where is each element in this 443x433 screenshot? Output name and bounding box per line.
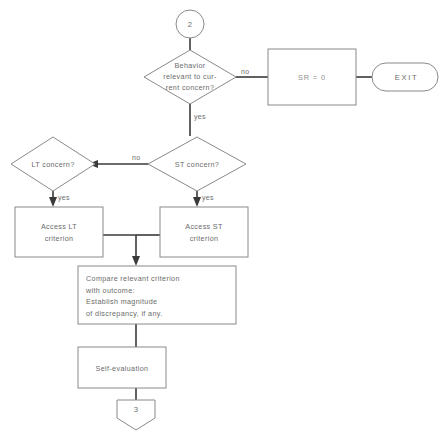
edge-label-behavior-yes: yes bbox=[194, 113, 206, 121]
flowchart-canvas: 2 Behavior relevant to cur- rent concern… bbox=[0, 0, 443, 433]
terminal-exit[interactable]: EXIT bbox=[372, 63, 438, 91]
connector-exit-3[interactable]: 3 bbox=[117, 400, 155, 430]
arrowhead-st-yes bbox=[193, 197, 201, 207]
connector-entry-2[interactable]: 2 bbox=[176, 10, 204, 38]
behavior-decision-line3: rent concern? bbox=[166, 83, 215, 92]
process-access-lt[interactable]: Access LT criterion bbox=[15, 207, 103, 257]
sr-zero-label: SR = 0 bbox=[298, 73, 326, 82]
flowchart-diagram: 2 Behavior relevant to cur- rent concern… bbox=[0, 0, 443, 433]
access-lt-box bbox=[15, 207, 103, 257]
access-lt-line2: criterion bbox=[45, 234, 74, 243]
access-st-line1: Access ST bbox=[185, 222, 223, 231]
compare-criterion-line2: with outcome: bbox=[85, 286, 135, 295]
arrowhead-to-compare bbox=[132, 256, 140, 266]
compare-criterion-line1: Compare relevant criterion bbox=[86, 274, 180, 283]
decision-behavior-relevant[interactable]: Behavior relevant to cur- rent concern? bbox=[144, 50, 236, 104]
decision-lt-concern[interactable]: LT concern? bbox=[11, 137, 95, 191]
process-compare-criterion[interactable]: Compare relevant criterion with outcome:… bbox=[78, 266, 236, 324]
edge-label-st-no: no bbox=[132, 154, 141, 161]
decision-st-concern[interactable]: ST concern? bbox=[148, 137, 246, 191]
lt-concern-label: LT concern? bbox=[31, 160, 74, 169]
edge-label-st-yes: yes bbox=[202, 194, 214, 202]
process-access-st[interactable]: Access ST criterion bbox=[160, 207, 248, 257]
exit-terminal-label: EXIT bbox=[395, 73, 418, 82]
entry-connector-label: 2 bbox=[188, 20, 193, 29]
arrowhead-lt-yes bbox=[49, 197, 57, 207]
behavior-decision-line2: relevant to cur- bbox=[163, 72, 217, 81]
access-st-box bbox=[160, 207, 248, 257]
edge-label-lt-yes: yes bbox=[58, 194, 70, 202]
self-evaluation-label: Self-evaluation bbox=[96, 364, 149, 373]
behavior-decision-line1: Behavior bbox=[174, 61, 205, 70]
access-lt-line1: Access LT bbox=[41, 222, 77, 231]
compare-criterion-line4: of discrepancy, if any. bbox=[86, 309, 163, 318]
edge-label-behavior-no: no bbox=[241, 68, 250, 75]
st-concern-label: ST concern? bbox=[175, 160, 219, 169]
exit-connector-label: 3 bbox=[134, 405, 139, 414]
compare-criterion-line3: Establish magnitude bbox=[86, 297, 157, 306]
access-st-line2: criterion bbox=[190, 234, 219, 243]
process-self-evaluation[interactable]: Self-evaluation bbox=[78, 347, 166, 388]
process-sr-zero[interactable]: SR = 0 bbox=[268, 49, 356, 105]
